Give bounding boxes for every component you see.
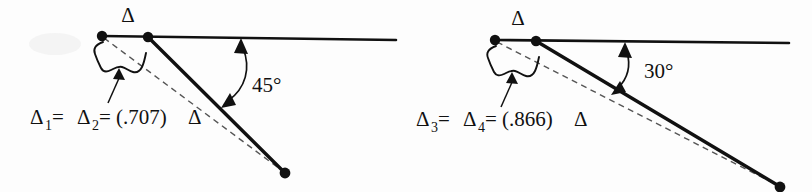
formula-right-sub1: 3	[431, 120, 438, 135]
leader-line-right	[501, 80, 513, 107]
panel-left: Δ 45° Δ 1 = Δ 2 = (.707) Δ	[30, 3, 396, 178]
formula-left-term3: Δ	[188, 105, 202, 129]
formula-right-equals2: = (.866)	[485, 107, 553, 131]
formula-right-sub2: 4	[478, 120, 485, 135]
brace-right	[487, 46, 539, 76]
delta-label-left: Δ	[121, 3, 135, 27]
formula-right-term2: Δ	[463, 107, 477, 131]
figure-root: Δ 45° Δ 1 = Δ 2 = (.707) Δ	[0, 0, 812, 192]
angle-label-left: 45°	[252, 73, 281, 97]
leader-arrowhead-left	[113, 68, 125, 80]
node-dot-right-origin	[490, 35, 500, 45]
formula-right-term3: Δ	[574, 107, 588, 131]
formula-left-equals1: =	[52, 105, 64, 129]
angle-arrowhead-top-left	[234, 38, 248, 54]
formula-right-term1: Δ	[416, 107, 430, 131]
panel-right: Δ 30° Δ 3 = Δ 4 = (.866) Δ	[416, 6, 789, 192]
inclined-member-left	[148, 37, 284, 172]
scan-artifact	[29, 33, 81, 55]
node-dot-right-second	[531, 36, 541, 46]
node-dot-left-origin	[97, 31, 107, 41]
formula-right: Δ 3 = Δ 4 = (.866) Δ	[416, 107, 588, 135]
formula-left-term1: Δ	[30, 105, 44, 129]
angle-arc-left	[228, 48, 247, 101]
node-dot-left-second	[143, 32, 153, 42]
figure-canvas: Δ 45° Δ 1 = Δ 2 = (.707) Δ	[0, 0, 812, 192]
delta-label-right: Δ	[511, 6, 525, 30]
formula-left-term2: Δ	[77, 105, 91, 129]
formula-left: Δ 1 = Δ 2 = (.707) Δ	[30, 105, 202, 133]
formula-left-equals2: = (.707)	[99, 105, 167, 129]
brace-left	[94, 42, 146, 72]
leader-line-left	[108, 76, 120, 103]
angle-label-right: 30°	[644, 59, 673, 83]
formula-right-equals1: =	[438, 107, 450, 131]
formula-left-sub1: 1	[45, 118, 52, 133]
node-dot-left-endpoint	[280, 168, 291, 179]
angle-arrowhead-top-right	[618, 42, 632, 58]
leader-arrowhead-right	[506, 72, 518, 84]
node-dot-right-endpoint	[775, 182, 786, 192]
formula-left-sub2: 2	[92, 118, 99, 133]
